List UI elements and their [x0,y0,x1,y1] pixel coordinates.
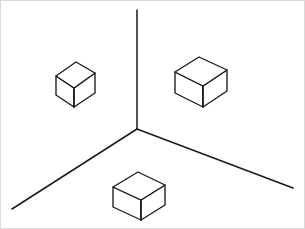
figure-root: Line drawing: three straight lines meet … [0,0,305,229]
bottom-cube [113,172,165,220]
line-drawing-canvas [1,1,304,228]
lower-right-axis-line [137,129,293,188]
left-cube [56,62,95,107]
right-cube [175,57,227,107]
